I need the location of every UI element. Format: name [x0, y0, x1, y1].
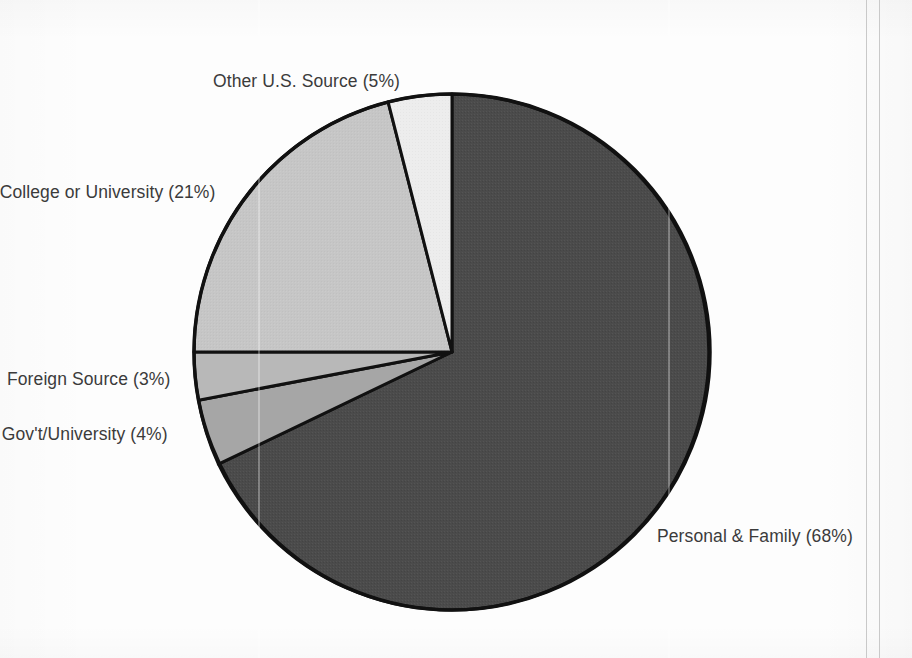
pie-label-us-college-university: S. College or University (21%) [0, 182, 215, 203]
pie-chart-figure [0, 0, 912, 658]
pie-label-foreign-source: Foreign Source (3%) [7, 369, 170, 390]
pie-label-personal-family: Personal & Family (68%) [657, 526, 853, 547]
pie-label-foreign-gov-university: n Gov't/University (4%) [0, 424, 168, 445]
chart-page: Other U.S. Source (5%) S. College or Uni… [0, 0, 912, 658]
pie-label-other-us-source: Other U.S. Source (5%) [213, 71, 400, 92]
